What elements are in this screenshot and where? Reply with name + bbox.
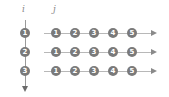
j-node-1-1: 1 <box>51 28 61 38</box>
j-arrow-icon-row-2 <box>151 49 157 55</box>
j-node-1-2: 2 <box>70 28 80 38</box>
i-node-2: 2 <box>20 47 30 57</box>
i-axis-arrow-icon <box>22 86 28 92</box>
j-node-3-5: 5 <box>127 66 137 76</box>
j-node-1-4: 4 <box>108 28 118 38</box>
j-node-2-5: 5 <box>127 47 137 57</box>
j-node-2-3: 3 <box>89 47 99 57</box>
j-node-3-1: 1 <box>51 66 61 76</box>
j-axis-label: j <box>53 5 56 14</box>
j-node-3-4: 4 <box>108 66 118 76</box>
j-node-2-1: 1 <box>51 47 61 57</box>
j-node-3-3: 3 <box>89 66 99 76</box>
j-arrow-icon-row-1 <box>151 30 157 36</box>
j-node-2-4: 4 <box>108 47 118 57</box>
j-node-1-5: 5 <box>127 28 137 38</box>
j-node-1-3: 3 <box>89 28 99 38</box>
j-node-3-2: 2 <box>70 66 80 76</box>
i-node-1: 1 <box>20 28 30 38</box>
j-arrow-icon-row-3 <box>151 68 157 74</box>
i-node-3: 3 <box>20 66 30 76</box>
i-axis-label: i <box>22 5 25 14</box>
j-node-2-2: 2 <box>70 47 80 57</box>
